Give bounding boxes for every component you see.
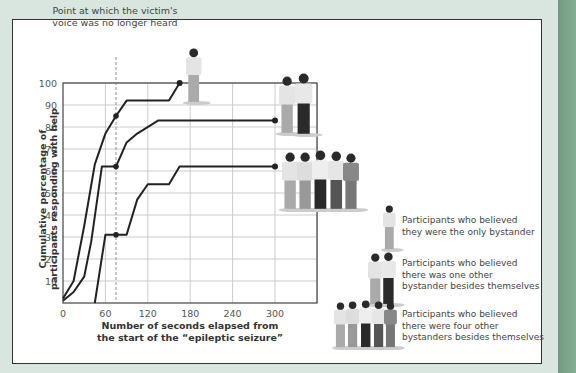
- victim-voice-annotation: Point at which the victim's voice was no…: [50, 5, 180, 29]
- y-tick-label: 100: [39, 78, 57, 89]
- legend-icon-only-bystander: [381, 205, 404, 252]
- x-tick-label: 300: [266, 308, 284, 319]
- legend-line: Participants who believed: [402, 258, 539, 270]
- legend-icon-one-other-man: [378, 253, 405, 307]
- x-axis-label: Number of seconds elapsed from the start…: [85, 320, 295, 344]
- y-axis-label-line-1: Cumulative percentage of: [37, 89, 48, 309]
- legend-line: bystanders besides themselves: [402, 332, 544, 344]
- legend-entry-four-others: Participants who believed there were fou…: [402, 309, 544, 344]
- series-end-marker: [177, 80, 183, 86]
- series-line-3: [95, 167, 275, 303]
- annotation-marker: [113, 164, 119, 170]
- y-axis-label: Cumulative percentage of participants re…: [37, 89, 59, 309]
- y-axis-label-line-2: participants responding with help: [48, 89, 59, 309]
- x-axis-label-line-2: the start of the “epileptic seizure”: [85, 332, 295, 344]
- annotation-marker: [113, 113, 119, 119]
- annotation-line-1: Point at which the victim's: [50, 5, 180, 17]
- legend-entry-one-other: Participants who believed there was one …: [402, 258, 539, 293]
- series-end-marker: [272, 164, 278, 170]
- x-tick-label: 180: [181, 308, 199, 319]
- legend-line: there was one other: [402, 270, 539, 282]
- legend-line: there were four other: [402, 321, 544, 333]
- legend-line: Participants who believed: [402, 309, 544, 321]
- x-axis-label-line-1: Number of seconds elapsed from: [85, 320, 295, 332]
- legend-line: bystander besides themselves: [402, 281, 539, 293]
- x-tick-label: 0: [60, 308, 66, 319]
- person-icon-only-bystander: [183, 49, 211, 105]
- series-end-marker: [272, 117, 278, 123]
- annotation-line-2: voice was no longer heard: [50, 17, 180, 29]
- series-line-2: [63, 120, 275, 300]
- legend-entry-only-bystander: Participants who believed they were the …: [402, 215, 535, 238]
- legend-line: Participants who believed: [402, 215, 535, 227]
- legend-line: they were the only bystander: [402, 227, 535, 239]
- annotation-marker: [113, 232, 119, 238]
- series-line-1: [63, 83, 180, 299]
- x-tick-label: 60: [99, 308, 111, 319]
- x-tick-label: 240: [224, 308, 242, 319]
- x-tick-label: 120: [139, 308, 157, 319]
